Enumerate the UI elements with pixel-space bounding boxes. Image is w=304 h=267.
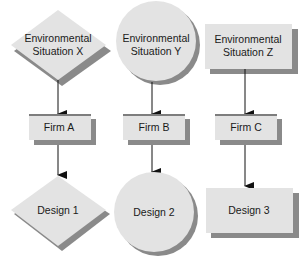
firm-c-node: Firm C: [215, 114, 282, 145]
design-2-node: Design 2: [114, 172, 198, 256]
firm-a-node: Firm A: [29, 114, 96, 145]
env-x-line1: Environmental: [24, 32, 91, 44]
design-1-label: Design 1: [37, 204, 79, 216]
flow-diagram: Environmental Situation X Environmental …: [0, 0, 304, 267]
environmental-situation-y-node: Environmental Situation Y: [116, 1, 200, 85]
firm-c-label: Firm C: [230, 121, 262, 133]
firm-b-label: Firm B: [139, 121, 170, 133]
env-y-line1: Environmental: [122, 32, 189, 44]
env-x-line2: Situation X: [33, 45, 84, 57]
design-1-node: Design 1: [11, 176, 110, 251]
firm-b-node: Firm B: [123, 114, 190, 145]
environmental-situation-x-node: Environmental Situation X: [11, 10, 111, 86]
firm-a-label: Firm A: [44, 121, 74, 133]
design-3-node: Design 3: [206, 188, 299, 238]
env-y-line2: Situation Y: [131, 45, 182, 57]
env-z-line2: Situation Z: [223, 46, 274, 58]
design-3-label: Design 3: [228, 204, 270, 216]
environmental-situation-z-node: Environmental Situation Z: [205, 24, 298, 74]
env-z-line1: Environmental: [214, 33, 281, 45]
design-2-label: Design 2: [133, 206, 175, 218]
